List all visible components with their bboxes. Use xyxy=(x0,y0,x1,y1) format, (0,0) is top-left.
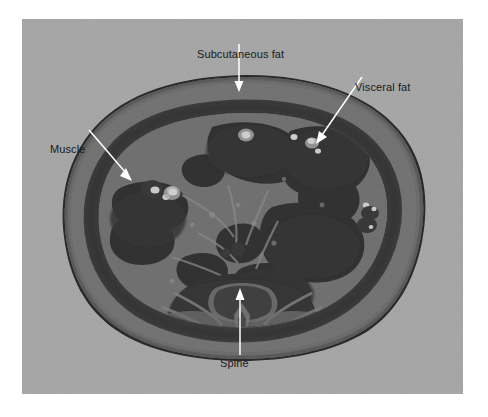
label-visceral-fat: Visceral fat xyxy=(355,81,410,94)
label-muscle: Muscle xyxy=(50,143,85,156)
ct-scan-canvas xyxy=(22,19,463,394)
figure-root: Subcutaneous fat Visceral fat Muscle Spi… xyxy=(0,0,488,417)
ct-scan-image: Subcutaneous fat Visceral fat Muscle Spi… xyxy=(22,19,463,394)
label-subcutaneous-fat: Subcutaneous fat xyxy=(197,48,284,61)
label-spine: Spine xyxy=(220,357,249,370)
